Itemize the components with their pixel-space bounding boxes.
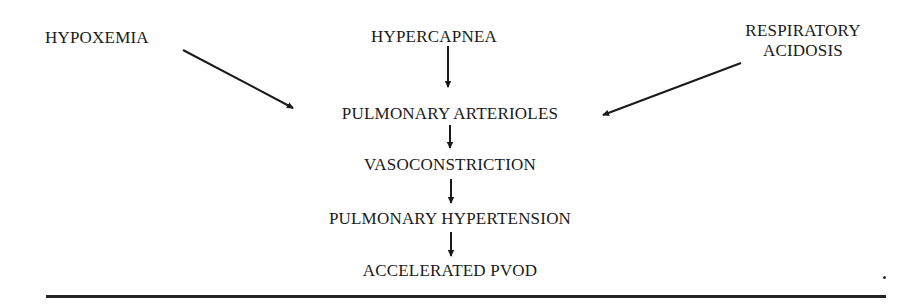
bottom-rule-divider	[46, 295, 886, 298]
arrows	[0, 0, 921, 305]
arrow-acidosis-to-arterioles-icon	[603, 63, 741, 115]
stray-dot	[883, 276, 886, 279]
arrow-hypoxemia-to-arterioles-icon	[183, 50, 293, 108]
